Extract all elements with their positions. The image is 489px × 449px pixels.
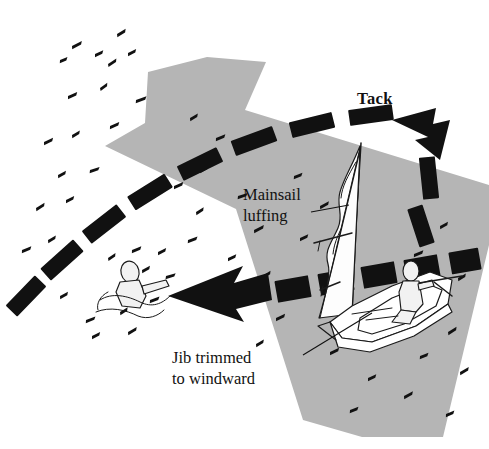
label-mainsail-luffing-line2: luffing: [243, 206, 288, 225]
label-mainsail-luffing-line1: Mainsail: [243, 185, 301, 204]
helmsman-head: [403, 261, 419, 281]
sailing-diagram-figure: Tack Mainsail luffing Jib trimmed to win…: [0, 0, 489, 449]
label-jib-trimmed-line1: Jib trimmed: [172, 348, 252, 367]
diagram-canvas: Tack Mainsail luffing Jib trimmed to win…: [0, 0, 489, 449]
label-tack: Tack: [357, 89, 393, 108]
label-jib-trimmed-line2: to windward: [172, 369, 256, 388]
